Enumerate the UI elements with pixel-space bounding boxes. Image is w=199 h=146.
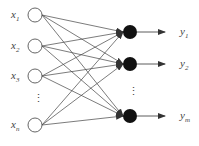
input-nodes xyxy=(28,8,42,132)
output-label-y1: y1 xyxy=(180,26,188,40)
output-node xyxy=(123,109,137,123)
output-label-y2: y2 xyxy=(180,58,188,72)
network-diagram xyxy=(0,0,199,146)
input-label-xn: xn xyxy=(11,119,19,133)
input-label-x1: x1 xyxy=(11,9,19,23)
output-node xyxy=(123,25,137,39)
output-node xyxy=(123,57,137,71)
input-label-x2: x2 xyxy=(11,40,19,54)
output-arrows xyxy=(137,32,165,116)
input-label-x3: x3 xyxy=(11,70,19,84)
connections xyxy=(42,15,123,125)
input-node xyxy=(28,69,42,83)
input-ellipsis: ⋮ xyxy=(33,93,44,104)
input-node xyxy=(28,118,42,132)
input-node xyxy=(28,8,42,22)
output-nodes xyxy=(123,25,137,123)
output-ellipsis: ⋮ xyxy=(128,86,139,97)
input-node xyxy=(28,39,42,53)
output-label-ym: ym xyxy=(180,110,190,124)
